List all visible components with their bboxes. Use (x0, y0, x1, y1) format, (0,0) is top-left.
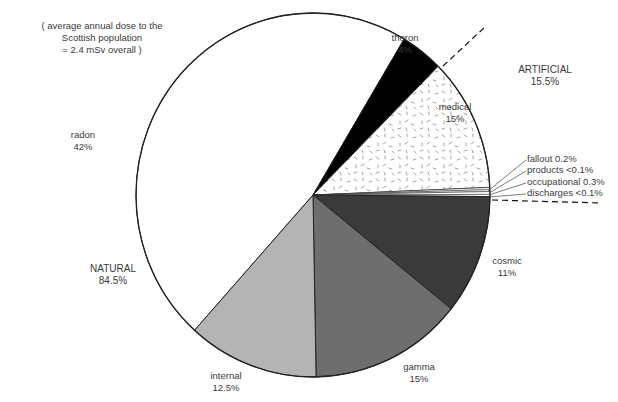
slice-name: cosmic (482, 255, 532, 267)
label-internal: internal 12.5% (196, 370, 256, 394)
pie-chart (0, 0, 618, 402)
note-line-2: Scottish population (22, 32, 182, 44)
slice-value: 15% (394, 373, 444, 385)
note-line-3: = 2.4 mSv overall ) (22, 44, 182, 56)
leader-lines (488, 160, 526, 197)
slice-value: 4% (380, 44, 430, 56)
slice-value: 42% (58, 141, 108, 153)
label-discharges: discharges <0.1% (527, 187, 603, 199)
pie (136, 13, 490, 377)
group-value: 15.5% (510, 76, 580, 88)
note-line-1: ( average annual dose to the (22, 20, 182, 32)
group-name: NATURAL (78, 263, 148, 275)
group-separator-right (492, 200, 602, 203)
label-cosmic: cosmic 11% (482, 255, 532, 279)
label-medical: medical 15% (430, 101, 480, 125)
slice-value: 11% (482, 267, 532, 279)
slice-name: medical (430, 101, 480, 113)
slice-name: internal (196, 370, 256, 382)
label-gamma: gamma 15% (394, 361, 444, 385)
slice-name: products <0.1% (527, 164, 593, 176)
slice-name: thoron (380, 32, 430, 44)
slice-name: gamma (394, 361, 444, 373)
chart-subtitle-note: ( average annual dose to the Scottish po… (22, 20, 182, 56)
label-artificial-group: ARTIFICIAL 15.5% (510, 64, 580, 88)
label-natural-group: NATURAL 84.5% (78, 263, 148, 287)
slice-value: 15% (430, 113, 480, 125)
group-separator-top (443, 26, 486, 66)
group-value: 84.5% (78, 275, 148, 287)
label-radon: radon 42% (58, 129, 108, 153)
slice-value: 12.5% (196, 382, 256, 394)
label-thoron: thoron 4% (380, 32, 430, 56)
label-products: products <0.1% (527, 164, 593, 176)
slice-name: discharges <0.1% (527, 187, 603, 199)
group-name: ARTIFICIAL (510, 64, 580, 76)
slice-name: radon (58, 129, 108, 141)
